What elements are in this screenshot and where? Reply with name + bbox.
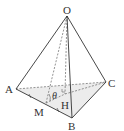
label-C: C: [108, 77, 115, 89]
tetrahedron-diagram: O A B C H M θ: [0, 0, 124, 131]
segment-OH-hidden: [65, 16, 67, 94]
label-A: A: [5, 83, 13, 95]
label-M: M: [34, 106, 44, 118]
edge-OC: [67, 16, 106, 82]
label-H: H: [61, 99, 69, 111]
label-theta: θ: [52, 90, 57, 101]
label-O: O: [63, 4, 71, 16]
edge-OA: [16, 16, 67, 89]
label-B: B: [68, 120, 75, 131]
